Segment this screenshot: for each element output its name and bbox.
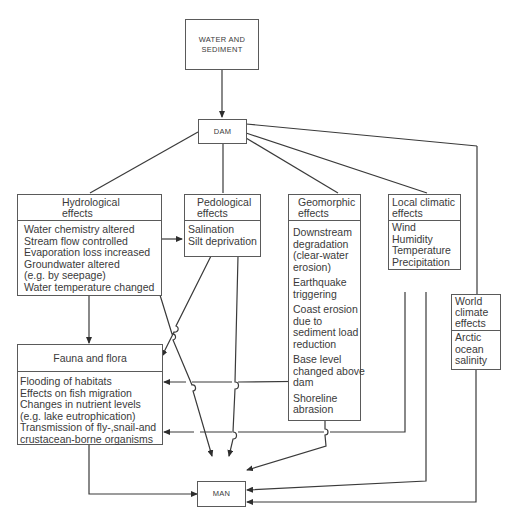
list-item: crustacean-borne organisms <box>20 434 160 446</box>
list-item: Evaporation loss increased <box>24 247 158 259</box>
list-item: Salination <box>188 224 257 236</box>
fauna-title: Fauna and flora <box>22 353 158 364</box>
dam-box: DAM <box>198 119 247 144</box>
list-group: Coast erosion due to sediment load reduc… <box>293 304 357 350</box>
list-item: Downstream <box>293 227 357 239</box>
list-item: Arctic <box>455 332 497 344</box>
list-item: Earthquake <box>293 277 357 289</box>
list-item: Base level <box>293 354 357 366</box>
list-item: abrasion <box>293 404 357 416</box>
hydrological-title-2: effects <box>62 208 157 219</box>
fauna-and-flora-box: Fauna and flora Flooding of habitats Eff… <box>17 344 163 445</box>
list-item: Wind <box>392 222 457 234</box>
local-climatic-effects-box: Local climatic effects Wind Humidity Tem… <box>388 194 461 270</box>
list-item: Temperature <box>392 245 457 257</box>
list-item: sediment load <box>293 327 357 339</box>
list-item: Water chemistry altered <box>24 224 158 236</box>
water-sediment-label-1: WATER AND <box>199 35 245 45</box>
man-box: MAN <box>197 481 246 507</box>
local-climatic-list: Wind Humidity Temperature Precipitation <box>389 221 460 270</box>
geomorphic-header: Geomorphic effects <box>289 195 360 221</box>
list-item: Flooding of habitats <box>20 376 160 388</box>
hydrological-list: Water chemistry altered Stream flow cont… <box>18 221 161 295</box>
pedological-header: Pedological effects <box>185 195 260 221</box>
pedological-effects-box: Pedological effects Salination Silt depr… <box>184 194 261 257</box>
fauna-header: Fauna and flora <box>18 345 162 372</box>
fauna-list: Flooding of habitats Effects on fish mig… <box>18 372 162 447</box>
list-item: salinity <box>455 355 497 367</box>
list-item: triggering <box>293 289 357 301</box>
list-item: dam <box>293 377 357 389</box>
water-sediment-label-2: SEDIMENT <box>199 45 245 55</box>
local-climatic-title-2: effects <box>392 208 456 219</box>
world-climate-title-3: effects <box>455 318 497 329</box>
list-item: Water temperature changed <box>24 282 158 294</box>
dam-label: DAM <box>214 127 232 137</box>
man-label: MAN <box>213 489 231 499</box>
list-item: Transmission of fly-,snail-and <box>20 422 160 434</box>
list-group: Base level changed above dam <box>293 354 357 389</box>
list-group: Downstream degradation (clear-water eros… <box>293 227 357 273</box>
list-item: Changes in nutrient levels <box>20 399 160 411</box>
list-group: Earthquake triggering <box>293 277 357 300</box>
list-item: Coast erosion <box>293 304 357 316</box>
world-climate-effects-box: World climate effects Arctic ocean salin… <box>451 294 501 370</box>
pedological-list: Salination Silt deprivation <box>185 221 260 249</box>
list-item: Precipitation <box>392 257 457 269</box>
water-and-sediment-box: WATER AND SEDIMENT <box>185 19 259 70</box>
world-climate-list: Arctic ocean salinity <box>452 331 500 368</box>
geomorphic-list: Downstream degradation (clear-water eros… <box>289 221 360 418</box>
hydrological-effects-box: Hydrological effects Water chemistry alt… <box>17 194 162 296</box>
local-climatic-header: Local climatic effects <box>389 195 460 221</box>
pedological-title-2: effects <box>197 208 256 219</box>
geomorphic-title-2: effects <box>298 208 356 219</box>
list-item: (e.g. by seepage) <box>24 270 158 282</box>
list-item: Silt deprivation <box>188 236 257 248</box>
list-item: (clear-water <box>293 250 357 262</box>
world-climate-header: World climate effects <box>452 295 500 331</box>
geomorphic-effects-box: Geomorphic effects Downstream degradatio… <box>288 194 361 421</box>
list-item: reduction <box>293 339 357 351</box>
list-group: Shoreline abrasion <box>293 393 357 416</box>
list-item: erosion) <box>293 262 357 274</box>
hydrological-header: Hydrological effects <box>18 195 161 221</box>
